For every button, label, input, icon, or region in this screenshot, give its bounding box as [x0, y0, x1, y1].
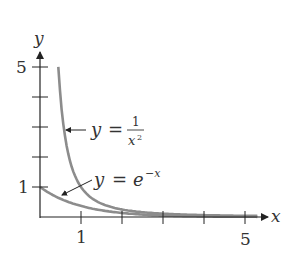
- svg-text:1: 1: [132, 115, 140, 129]
- svg-text:=: =: [112, 169, 127, 190]
- svg-text:=: =: [108, 119, 123, 140]
- svg-text:y: y: [90, 119, 102, 140]
- x-axis-label: x: [271, 206, 281, 226]
- x-tick-label-5: 5: [240, 229, 251, 249]
- chart: x y 5 1 1 5 y = 1 x 2 y = e −x: [0, 0, 292, 263]
- y-axis-label: y: [33, 28, 44, 48]
- svg-text:−x: −x: [145, 167, 161, 180]
- svg-text:2: 2: [137, 133, 142, 142]
- svg-text:x: x: [128, 133, 136, 148]
- x-tick-label-1: 1: [76, 227, 87, 247]
- svg-text:y: y: [93, 169, 105, 190]
- annotation-inverse-square: y = 1 x 2: [66, 115, 144, 148]
- svg-text:e: e: [133, 169, 144, 190]
- y-tick-label-1: 1: [18, 177, 29, 197]
- series-inverse-square: [58, 67, 257, 216]
- y-tick-label-5: 5: [16, 57, 27, 77]
